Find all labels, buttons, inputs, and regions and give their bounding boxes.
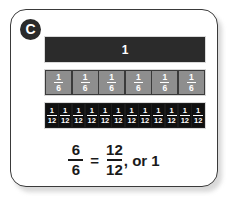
fraction-denominator: 6	[136, 83, 141, 92]
fraction-denominator: 12	[154, 116, 162, 124]
fraction-cell-twelfth: 1 12	[73, 104, 85, 127]
screenshot-root: C 1 1 6 1 6	[0, 0, 235, 198]
fraction-cell-twelfth: 1 12	[139, 104, 151, 127]
fraction-glyph: 1 12	[60, 107, 70, 124]
equation-right-fraction: 12 12	[106, 142, 123, 178]
fraction-bar-diagram: 1 1 6 1 6	[44, 36, 206, 129]
fraction-denominator: 6	[109, 83, 114, 92]
fraction-denominator: 12	[101, 116, 109, 124]
fraction-cell-sixth: 1 6	[152, 71, 177, 94]
fraction-glyph: 1 12	[87, 107, 97, 124]
fraction-denominator: 12	[61, 116, 69, 124]
fraction-glyph: 1 12	[113, 107, 123, 124]
part-label-badge: C	[20, 19, 41, 40]
fraction-numerator: 1	[196, 107, 200, 115]
equation-left-denominator: 6	[72, 162, 80, 178]
fraction-cell-twelfth: 1 12	[166, 104, 178, 127]
fraction-cell-twelfth: 1 12	[152, 104, 164, 127]
fraction-glyph: 1 6	[160, 73, 169, 92]
fraction-denominator: 12	[181, 116, 189, 124]
equation-right-numerator: 12	[106, 142, 123, 158]
fraction-cell-twelfth: 1 12	[86, 104, 98, 127]
fraction-glyph: 1 6	[107, 73, 116, 92]
equation-operator: =	[90, 152, 99, 169]
fraction-numerator: 1	[136, 73, 141, 82]
fraction-glyph: 1 6	[134, 73, 143, 92]
equation-tail-text: , or 1	[124, 152, 160, 169]
fraction-glyph: 1 12	[167, 107, 177, 124]
fraction-numerator: 1	[83, 73, 88, 82]
equation-left-fraction: 6 6	[68, 142, 83, 178]
fraction-numerator: 1	[169, 107, 173, 115]
fraction-denominator: 12	[141, 116, 149, 124]
fraction-glyph: 1 12	[100, 107, 110, 124]
fraction-numerator: 1	[143, 107, 147, 115]
fraction-cell-sixth: 1 6	[46, 71, 71, 94]
fraction-cell-twelfth: 1 12	[126, 104, 138, 127]
fraction-numerator: 1	[109, 73, 114, 82]
fraction-glyph: 1 12	[47, 107, 57, 124]
fraction-numerator: 1	[56, 73, 61, 82]
fraction-denominator: 6	[56, 83, 61, 92]
fraction-denominator: 12	[48, 116, 56, 124]
fraction-numerator: 1	[50, 107, 54, 115]
fraction-denominator: 12	[167, 116, 175, 124]
fraction-cell-sixth: 1 6	[126, 71, 151, 94]
whole-bar-row: 1	[44, 36, 206, 63]
fraction-cell-sixth: 1 6	[179, 71, 204, 94]
fraction-cell-sixth: 1 6	[73, 71, 98, 94]
fraction-glyph: 1 12	[153, 107, 163, 124]
fraction-glyph: 1 6	[187, 73, 196, 92]
fraction-denominator: 12	[128, 116, 136, 124]
fraction-numerator: 1	[156, 107, 160, 115]
fraction-numerator: 1	[130, 107, 134, 115]
fraction-numerator: 1	[63, 107, 67, 115]
fraction-glyph: 1 12	[193, 107, 203, 124]
whole-bar-label: 1	[122, 43, 129, 57]
fraction-denominator: 12	[74, 116, 82, 124]
sixths-bar-row: 1 6 1 6 1 6	[44, 69, 206, 96]
fraction-numerator: 1	[189, 73, 194, 82]
fraction-numerator: 1	[162, 73, 167, 82]
fraction-denominator: 6	[162, 83, 167, 92]
fraction-denominator: 12	[88, 116, 96, 124]
fraction-denominator: 6	[189, 83, 194, 92]
equation-right-denominator: 12	[106, 162, 123, 178]
fraction-cell-twelfth: 1 12	[179, 104, 191, 127]
fraction-cell-twelfth: 1 12	[99, 104, 111, 127]
fraction-denominator: 12	[194, 116, 202, 124]
fraction-numerator: 1	[76, 107, 80, 115]
fraction-glyph: 1 6	[54, 73, 63, 92]
fraction-cell-twelfth: 1 12	[59, 104, 71, 127]
fraction-cell-twelfth: 1 12	[192, 104, 204, 127]
fraction-numerator: 1	[183, 107, 187, 115]
fraction-glyph: 1 12	[180, 107, 190, 124]
fraction-glyph: 1 12	[73, 107, 83, 124]
fraction-glyph: 1 6	[81, 73, 90, 92]
fraction-numerator: 1	[116, 107, 120, 115]
fraction-glyph: 1 12	[140, 107, 150, 124]
equation-left-numerator: 6	[72, 142, 80, 158]
fraction-glyph: 1 12	[127, 107, 137, 124]
fraction-denominator: 6	[83, 83, 88, 92]
fraction-cell-sixth: 1 6	[99, 71, 124, 94]
twelfths-bar-row: 1 12 1 12 1 12	[44, 102, 206, 129]
fraction-denominator: 12	[114, 116, 122, 124]
fraction-cell-twelfth: 1 12	[112, 104, 124, 127]
worksheet-card: C 1 1 6 1 6	[10, 9, 218, 187]
fraction-numerator: 1	[103, 107, 107, 115]
fraction-numerator: 1	[90, 107, 94, 115]
equation-line: 6 6 = 12 12 , or 1	[11, 142, 217, 178]
fraction-cell-twelfth: 1 12	[46, 104, 58, 127]
